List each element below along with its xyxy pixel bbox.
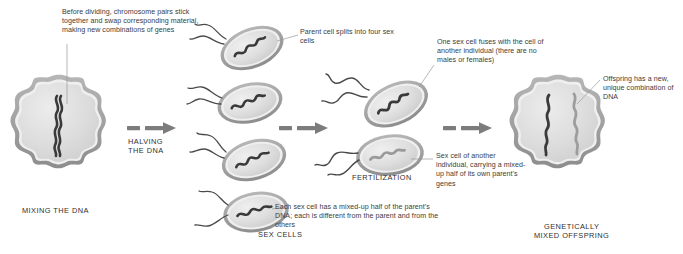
sex-cell-2 bbox=[187, 76, 287, 130]
diagram-canvas: Before dividing, chromosome pairs stick … bbox=[0, 0, 683, 254]
caption-before-dividing: Before dividing, chromosome pairs stick … bbox=[62, 8, 202, 36]
sex-cell-3 bbox=[190, 132, 291, 189]
fusing-cell-upper-flagella bbox=[322, 74, 369, 103]
stage-label-sex-cells: SEX CELLS bbox=[258, 230, 302, 239]
parent-cell bbox=[11, 75, 106, 169]
caption-parent-splits: Parent cell splits into four sex cells bbox=[300, 28, 398, 46]
fusing-cell-upper bbox=[322, 71, 435, 137]
stage-label-halving-the-dna: HALVING THE DNA bbox=[128, 137, 164, 156]
caption-sex-cell-of-another: Sex cell of another individual, carrying… bbox=[436, 152, 526, 189]
stage-label-mixing-the-dna: MIXING THE DNA bbox=[22, 206, 89, 215]
arrow-to-fertilization bbox=[279, 122, 328, 134]
stage-label-fertilization: FERTILIZATION bbox=[352, 173, 412, 182]
fusing-cell-lower-flagella bbox=[315, 152, 359, 175]
caption-one-sex-cell-fuses: One sex cell fuses with the cell of anot… bbox=[437, 38, 557, 66]
leader-one-sex-cell-fuses bbox=[419, 65, 434, 87]
sex-cell-1 bbox=[190, 17, 290, 79]
sex-cell-3-flagella bbox=[190, 133, 226, 158]
caption-offspring-dna: Offspring has a new, unique combination … bbox=[603, 75, 679, 103]
arrow-halving bbox=[127, 122, 176, 134]
sex-cell-4-flagella bbox=[195, 191, 228, 226]
caption-each-sex-cell: Each sex cell has a mixed-up half of the… bbox=[275, 203, 447, 231]
stage-label-genetically-mixed-offspring: GENETICALLY MIXED OFFSPRING bbox=[534, 222, 609, 241]
sex-cell-2-flagella bbox=[187, 87, 222, 104]
arrow-to-offspring bbox=[443, 122, 492, 134]
